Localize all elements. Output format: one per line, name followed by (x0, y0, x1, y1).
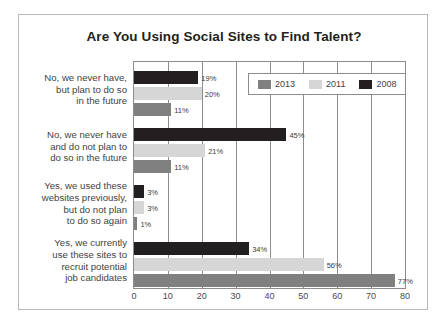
chart-legend: 201320112008 (248, 73, 406, 95)
category-label: No, we never have,but plan to do soin th… (19, 61, 127, 118)
bar-2013 (134, 274, 395, 287)
category-label-line: in the future (76, 95, 127, 107)
x-tick-label: 60 (332, 291, 342, 301)
x-tick-label: 70 (366, 291, 376, 301)
x-tick-label: 20 (197, 291, 207, 301)
bar-track: 3% (134, 201, 405, 214)
x-tick-label: 50 (298, 291, 308, 301)
bar-value-label: 3% (144, 203, 158, 212)
category-label: Yes, we currentlyuse these sites torecru… (19, 232, 127, 289)
x-tick-label: 30 (231, 291, 241, 301)
bar-group: 45%21%11% (134, 119, 405, 176)
bar-track: 45% (134, 128, 405, 141)
legend-entry-2013: 2013 (258, 79, 295, 89)
x-tick-label: 80 (400, 291, 410, 301)
bar-value-label: 19% (198, 73, 216, 82)
bar-2011 (134, 144, 205, 157)
bar-track: 56% (134, 258, 405, 271)
category-label-line: Yes, we currently (54, 237, 127, 249)
category-label-line: websites previously, (42, 192, 127, 204)
bar-value-label: 1% (137, 219, 151, 228)
bar-2013 (134, 160, 171, 173)
x-axis-tick-labels: 01020304050607080 (133, 291, 406, 307)
category-label: No, we never haveand do not plan todo so… (19, 118, 127, 175)
legend-swatch-icon (258, 80, 271, 89)
bar-2008 (134, 71, 198, 84)
bar-track: 11% (134, 160, 405, 173)
x-tick-label: 40 (264, 291, 274, 301)
bar-value-label: 21% (205, 146, 223, 155)
bar-value-label: 77% (395, 276, 413, 285)
bar-2008 (134, 128, 286, 141)
legend-label: 2011 (326, 79, 345, 89)
category-label-line: but do not plan (64, 204, 127, 216)
bar-value-label: 11% (171, 162, 188, 171)
bar-value-label: 3% (144, 187, 158, 196)
bar-value-label: 34% (249, 244, 267, 253)
bar-track: 11% (134, 103, 405, 116)
legend-label: 2013 (275, 79, 295, 89)
legend-entry-2008: 2008 (359, 79, 396, 89)
chart-title: Are You Using Social Sites to Find Talen… (19, 29, 429, 44)
category-axis-labels: No, we never have,but plan to do soin th… (19, 61, 129, 289)
bar-group: 34%56%77% (134, 233, 405, 290)
legend-swatch-icon (309, 80, 322, 89)
category-label-line: use these sites to (52, 249, 127, 261)
bar-track: 21% (134, 144, 405, 157)
bar-track: 3% (134, 185, 405, 198)
category-label-line: do so in the future (50, 152, 127, 164)
bar-2013 (134, 103, 171, 116)
bar-2011 (134, 201, 144, 214)
bar-value-label: 11% (171, 105, 188, 114)
legend-label: 2008 (376, 79, 396, 89)
chart-card: Are You Using Social Sites to Find Talen… (18, 14, 428, 310)
legend-entry-2011: 2011 (309, 79, 345, 89)
bar-2011 (134, 87, 202, 100)
category-label-line: recruit potential (61, 261, 127, 273)
bar-track: 77% (134, 274, 405, 287)
category-label-line: No, we never have, (44, 72, 127, 84)
category-label-line: Yes, we used these (44, 180, 127, 192)
bar-value-label: 20% (202, 89, 220, 98)
category-label-line: to do so again (67, 215, 127, 227)
plot-area: 19%20%11%45%21%11%3%3%1%34%56%77% (133, 61, 406, 289)
bar-track: 1% (134, 217, 405, 230)
bar-2008 (134, 185, 144, 198)
category-label: Yes, we used thesewebsites previously,bu… (19, 175, 127, 232)
legend-swatch-icon (359, 80, 372, 89)
category-label-line: and do not plan to (50, 141, 127, 153)
bar-value-label: 45% (286, 130, 304, 139)
category-label-line: but plan to do so (56, 84, 127, 96)
bar-track: 34% (134, 242, 405, 255)
category-label-line: No, we never have (47, 129, 127, 141)
bar-2008 (134, 242, 249, 255)
x-tick-label: 0 (131, 291, 136, 301)
x-tick-label: 10 (163, 291, 173, 301)
bar-2011 (134, 258, 324, 271)
bar-group: 3%3%1% (134, 176, 405, 233)
category-label-line: job candidates (65, 272, 127, 284)
bar-value-label: 56% (324, 260, 342, 269)
